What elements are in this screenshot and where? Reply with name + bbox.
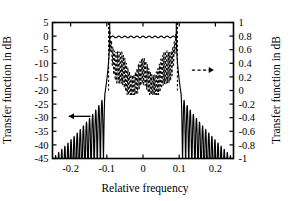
left-y-tick-label: -20	[35, 85, 49, 96]
right-y-tick-label: 1	[239, 17, 244, 28]
right-y-tick-label: 0.2	[239, 72, 252, 83]
x-tick-label: -0.1	[98, 163, 115, 174]
left-y-axis-title: Transfer function in dB	[1, 36, 13, 144]
chart-figure: -0.2-0.100.10.2 50-5-10-15-20-25-30-35-4…	[0, 0, 290, 201]
right-y-tick-label: -0.2	[239, 99, 256, 110]
x-tick-label: 0	[140, 163, 145, 174]
left-y-tick-label: -25	[35, 99, 49, 110]
right-y-tick-label: 0.8	[239, 31, 252, 42]
right-y-tick-label: -0.8	[239, 140, 256, 151]
left-y-tick-label: -30	[35, 112, 49, 123]
x-axis-title: Relative frequency	[101, 182, 188, 195]
transfer-function-chart: -0.2-0.100.10.2 50-5-10-15-20-25-30-35-4…	[0, 0, 290, 201]
right-y-tick-label: 0.4	[239, 58, 253, 69]
left-y-tick-label: -35	[35, 126, 49, 137]
right-y-tick-label: 0.6	[239, 44, 252, 55]
left-y-tick-label: -10	[35, 58, 49, 69]
right-y-tick-label: -1	[239, 153, 248, 164]
right-y-axis-title: Transfer function in dB	[270, 36, 282, 144]
x-tick-label: 0.2	[209, 163, 222, 174]
x-tick-label: -0.2	[62, 163, 79, 174]
left-y-tick-label: -45	[35, 153, 49, 164]
left-y-tick-label: -15	[35, 72, 49, 83]
x-tick-label: 0.1	[173, 163, 186, 174]
left-y-tick-label: -5	[40, 44, 49, 55]
right-y-tick-label: 0	[239, 85, 244, 96]
right-y-tick-label: -0.4	[239, 112, 256, 123]
left-y-tick-label: 0	[43, 31, 48, 42]
right-y-tick-label: -0.6	[239, 126, 256, 137]
left-y-tick-label: 5	[43, 17, 48, 28]
left-y-tick-label: -40	[35, 140, 49, 151]
